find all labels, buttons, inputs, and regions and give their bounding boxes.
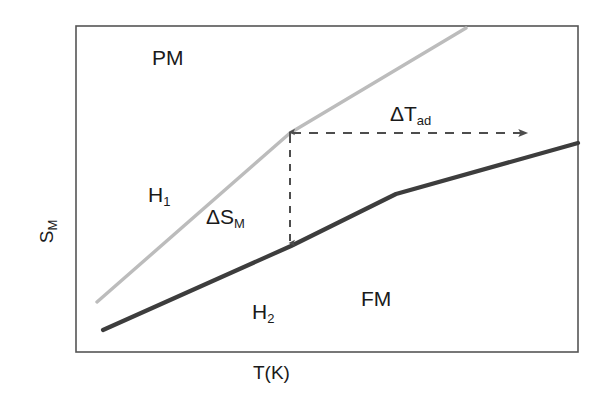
curve-label-h1: H1: [148, 184, 170, 205]
delta-s-m-symbol: Δ: [206, 205, 220, 228]
delta-t-ad-main: T: [404, 102, 417, 125]
delta-s-m-sub: M: [234, 216, 245, 231]
curve-label-h2: H2: [252, 301, 274, 322]
curve-label-h2-main: H: [252, 300, 267, 323]
annotation-label-delta-s-m: ΔSM: [206, 206, 245, 227]
annotation-label-delta-t-ad: ΔTad: [390, 103, 431, 124]
curve-label-h1-main: H: [148, 183, 163, 206]
delta-t-ad-symbol: Δ: [390, 102, 404, 125]
curve-label-h1-sub: 1: [163, 194, 170, 209]
y-axis-label-sub: M: [45, 220, 60, 231]
region-label-pm: PM: [152, 47, 184, 68]
curve-label-h2-sub: 2: [267, 311, 274, 326]
plot-canvas: [0, 0, 610, 405]
delta-s-m-main: S: [220, 205, 234, 228]
magnetocaloric-entropy-diagram: PM FM H1 H2 ΔSM ΔTad T(K) SM: [0, 0, 610, 405]
y-axis-label: SM: [37, 202, 56, 262]
delta-t-ad-sub: ad: [417, 113, 431, 128]
x-axis-label: T(K): [253, 363, 290, 382]
region-label-fm: FM: [361, 288, 391, 309]
y-axis-label-main: S: [36, 231, 57, 244]
curve-h1: [97, 28, 466, 302]
